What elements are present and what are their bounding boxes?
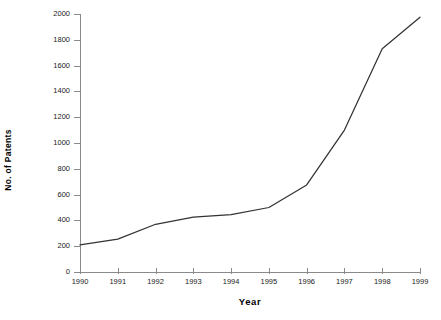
x-axis-tick-label: 1992 [136, 278, 176, 288]
y-axis-tick-label-text: 1800 [28, 36, 70, 44]
x-axis-tick [231, 268, 232, 274]
patents-line-chart: No. of Patents Year 02004006008001000120… [0, 0, 441, 320]
y-axis-tick-label: 600 [28, 191, 70, 199]
x-axis-tick-label: 1998 [362, 278, 402, 288]
x-axis-tick-label: 1993 [173, 278, 213, 288]
y-axis-tick-label-text: 600 [28, 191, 70, 199]
x-axis-tick-label-text: 1994 [211, 278, 251, 286]
x-axis-tick-label: 1997 [324, 278, 364, 288]
x-axis-tick-label: 1999 [400, 278, 440, 288]
y-axis-tick-label: 200 [28, 242, 70, 250]
y-axis-tick-label: 1200 [28, 113, 70, 121]
x-axis-tick-label: 1995 [249, 278, 289, 288]
x-axis-tick-label-text: 1993 [173, 278, 213, 286]
y-axis-tick-label-text: 400 [28, 216, 70, 224]
y-axis-tick [74, 169, 80, 170]
x-axis-tick [344, 268, 345, 274]
x-axis-tick-label: 1991 [98, 278, 138, 288]
y-axis-tick [74, 40, 80, 41]
x-axis-tick [307, 268, 308, 274]
x-axis-tick-label: 1994 [211, 278, 251, 288]
x-axis-tick-label-text: 1999 [400, 278, 440, 286]
y-axis-tick-label-text: 200 [28, 242, 70, 250]
x-axis-tick [118, 268, 119, 274]
y-axis-tick-label-text: 1200 [28, 113, 70, 121]
y-axis-tick [74, 66, 80, 67]
x-axis-tick-label-text: 1992 [136, 278, 176, 286]
x-axis-tick-label: 1990 [60, 278, 100, 288]
x-axis-title: Year [80, 296, 420, 307]
y-axis-line [80, 14, 81, 273]
y-axis-tick-label-text: 1000 [28, 139, 70, 147]
y-axis-tick-label: 2000 [28, 10, 70, 18]
x-axis-tick-label-text: 1995 [249, 278, 289, 286]
y-axis-tick-label: 1400 [28, 87, 70, 95]
y-axis-tick-label: 1600 [28, 62, 70, 70]
y-axis-tick-label: 0 [28, 268, 70, 276]
x-axis-tick [420, 268, 421, 274]
y-axis-tick-label-text: 0 [28, 268, 70, 276]
x-axis-tick [156, 268, 157, 274]
x-axis-tick-label-text: 1996 [287, 278, 327, 286]
y-axis-tick-label: 800 [28, 165, 70, 173]
y-axis-tick-label: 400 [28, 216, 70, 224]
y-axis-tick [74, 91, 80, 92]
y-axis-tick [74, 220, 80, 221]
y-axis-tick-label-text: 1400 [28, 87, 70, 95]
x-axis-tick [193, 268, 194, 274]
y-axis-tick [74, 14, 80, 15]
y-axis-tick-label: 1000 [28, 139, 70, 147]
y-axis-title: No. of Patents [0, 0, 16, 320]
series-line-no-of-patents [80, 17, 420, 245]
y-axis-tick [74, 143, 80, 144]
y-axis-tick [74, 246, 80, 247]
x-axis-tick-label-text: 1991 [98, 278, 138, 286]
x-axis-tick-label-text: 1998 [362, 278, 402, 286]
y-axis-tick [74, 195, 80, 196]
y-axis-tick [74, 117, 80, 118]
y-axis-tick-label: 1800 [28, 36, 70, 44]
x-axis-tick [80, 268, 81, 274]
x-axis-tick [382, 268, 383, 274]
y-axis-tick-label-text: 2000 [28, 10, 70, 18]
y-axis-tick-label-text: 800 [28, 165, 70, 173]
x-axis-line [80, 272, 421, 273]
y-axis-tick-label-text: 1600 [28, 62, 70, 70]
x-axis-tick-label: 1996 [287, 278, 327, 288]
x-axis-tick-label-text: 1990 [60, 278, 100, 286]
x-axis-tick-label-text: 1997 [324, 278, 364, 286]
x-axis-tick [269, 268, 270, 274]
